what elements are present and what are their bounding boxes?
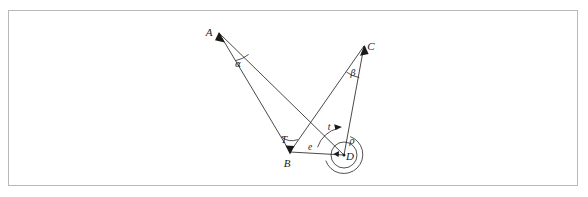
marker-group <box>215 32 369 157</box>
figure-root: A C B D α β T ρ t e <box>0 0 588 197</box>
point-label-B: B <box>284 157 291 169</box>
segment-A-B <box>219 33 290 152</box>
arrowhead-B <box>286 146 295 155</box>
point-label-A: A <box>205 26 213 38</box>
point-label-C: C <box>367 40 375 52</box>
arrowhead-e <box>334 151 340 157</box>
point-label-D: D <box>345 150 354 162</box>
arrowhead-t <box>334 124 342 130</box>
angle-label-alpha: α <box>235 59 241 69</box>
angle-label-rho: ρ <box>348 136 355 146</box>
segment-group <box>219 33 364 155</box>
angle-label-T: T <box>281 133 288 145</box>
geometry-diagram: A C B D α β T ρ t e <box>0 0 588 197</box>
distance-label-e: e <box>308 142 312 152</box>
angle-label-beta: β <box>349 68 355 78</box>
angle-label-t: t <box>328 122 331 132</box>
